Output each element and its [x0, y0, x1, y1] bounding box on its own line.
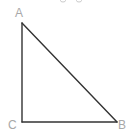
vertex-label-a: A — [15, 6, 23, 20]
triangle-diagram: A B C — [0, 0, 135, 135]
vertex-label-c: C — [8, 118, 17, 132]
vertex-label-b: B — [118, 118, 126, 132]
clipped-glyph — [61, 0, 66, 2]
edge-ab — [22, 23, 117, 122]
clipped-glyph — [77, 0, 82, 2]
